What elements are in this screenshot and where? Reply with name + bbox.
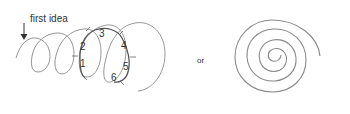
spiral-drawing bbox=[235, 20, 320, 92]
number-6: 6 bbox=[111, 72, 117, 83]
first-idea-label: first idea bbox=[30, 13, 68, 24]
diagram-canvas: first idea 1 2 3 4 5 6 or bbox=[0, 0, 350, 114]
number-3: 3 bbox=[99, 28, 105, 39]
or-label: or bbox=[197, 56, 204, 65]
number-4: 4 bbox=[121, 40, 127, 51]
number-1: 1 bbox=[80, 58, 86, 69]
arrow-icon bbox=[21, 23, 28, 40]
number-5: 5 bbox=[123, 61, 129, 72]
number-2: 2 bbox=[80, 41, 86, 52]
